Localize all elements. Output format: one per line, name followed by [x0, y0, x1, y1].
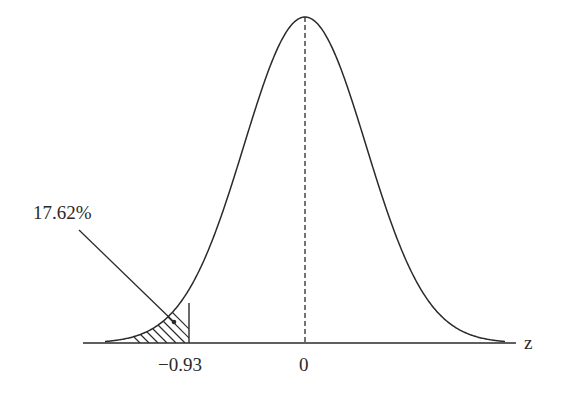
- annotation-dot: [172, 320, 177, 325]
- tick-label-zero: 0: [299, 355, 309, 374]
- normal-curve-diagram: [0, 0, 568, 399]
- tick-label-cutoff: −0.93: [158, 355, 202, 374]
- axis-label-z: z: [524, 333, 532, 352]
- hatched-region: [100, 303, 203, 343]
- annotation-leader-line: [79, 230, 174, 322]
- annotation-label: 17.62%: [33, 203, 92, 222]
